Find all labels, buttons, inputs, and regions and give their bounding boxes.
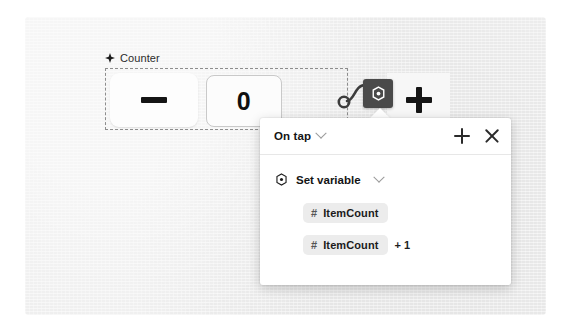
variable-expression-row[interactable]: # ItemCount + 1 <box>260 235 511 255</box>
variable-chip-label: ItemCount <box>323 207 378 219</box>
panel-body: Set variable # ItemCount # ItemCount + 1 <box>260 155 511 255</box>
set-variable-target-icon <box>275 173 288 186</box>
panel-header: On tap <box>260 118 511 155</box>
set-variable-action-node[interactable] <box>363 79 393 108</box>
set-variable-target-icon <box>371 86 386 101</box>
plus-icon <box>406 87 432 113</box>
panel-title[interactable]: On tap <box>274 130 311 142</box>
component-label-text: Counter <box>120 52 160 64</box>
hash-icon: # <box>311 207 317 219</box>
minus-icon <box>141 97 167 103</box>
expression-suffix: + 1 <box>395 239 411 251</box>
variable-chip[interactable]: # ItemCount <box>303 203 388 223</box>
interaction-panel[interactable]: On tap Set variable # <box>260 118 511 285</box>
chevron-down-icon[interactable] <box>315 128 326 139</box>
action-row[interactable]: Set variable <box>260 173 511 186</box>
action-title: Set variable <box>296 174 361 186</box>
variable-chip-label: ItemCount <box>323 239 378 251</box>
variable-chip[interactable]: # ItemCount <box>303 235 388 255</box>
chevron-down-icon[interactable] <box>373 171 384 182</box>
close-panel-button[interactable] <box>484 128 500 144</box>
variable-target-row[interactable]: # ItemCount <box>260 203 511 223</box>
screenshot-root: Counter 0 On tap <box>0 0 569 331</box>
panel-header-actions <box>454 128 500 144</box>
component-label[interactable]: Counter <box>105 52 160 64</box>
decrement-button[interactable] <box>110 73 198 127</box>
component-diamond-icon <box>105 53 115 63</box>
hash-icon: # <box>311 239 317 251</box>
add-interaction-button[interactable] <box>454 128 470 144</box>
